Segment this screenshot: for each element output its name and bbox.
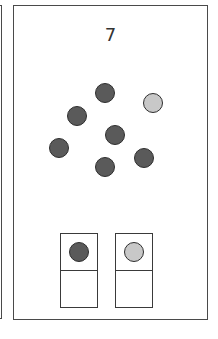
dot-dark — [95, 157, 115, 177]
dot-dark — [134, 148, 154, 168]
slot-dot-light — [124, 242, 144, 262]
dot-dark — [49, 138, 69, 158]
dot-dark — [95, 83, 115, 103]
card-number: 7 — [14, 24, 207, 45]
slot-bottom-cell[interactable] — [60, 270, 98, 308]
dot-dark — [105, 125, 125, 145]
dot-light — [143, 93, 163, 113]
dot-dark — [67, 106, 87, 126]
slot-bottom-cell[interactable] — [115, 270, 153, 308]
slot-top-cell[interactable] — [60, 233, 98, 271]
slot-top-cell[interactable] — [115, 233, 153, 271]
card: 7 — [13, 5, 208, 320]
slot-dot-dark — [69, 242, 89, 262]
adjacent-card-edge — [0, 5, 2, 319]
